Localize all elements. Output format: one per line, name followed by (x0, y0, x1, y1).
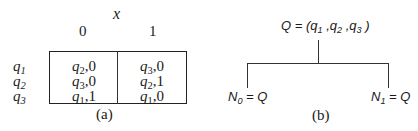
column-header-0: 0 (79, 23, 87, 40)
left-leaf-label: N0 = Q (228, 89, 267, 104)
caption-b: (b) (312, 107, 330, 124)
table-cell: q1,1 (50, 88, 118, 104)
branch-bar (247, 63, 389, 64)
row-label-q2: q2 (13, 73, 26, 89)
table-cell: q3,0 (118, 58, 186, 74)
table-cell: q2,1 (118, 73, 186, 89)
column-variable-label: x (113, 5, 120, 23)
table-cell: q1,0 (118, 88, 186, 104)
row-label-q3: q3 (13, 88, 26, 104)
right-leaf-label: N1 = Q (371, 89, 410, 104)
right-edge (388, 63, 389, 88)
column-header-1: 1 (149, 23, 157, 40)
root-edge (318, 40, 319, 64)
table-cell: q3,0 (50, 73, 118, 89)
root-node-label: Q = (q1 ,q2 ,q3 ) (281, 18, 370, 33)
table-cell: q2,0 (50, 58, 118, 74)
caption-a: (a) (96, 106, 113, 123)
left-edge (247, 63, 248, 88)
row-label-q1: q1 (13, 58, 26, 74)
